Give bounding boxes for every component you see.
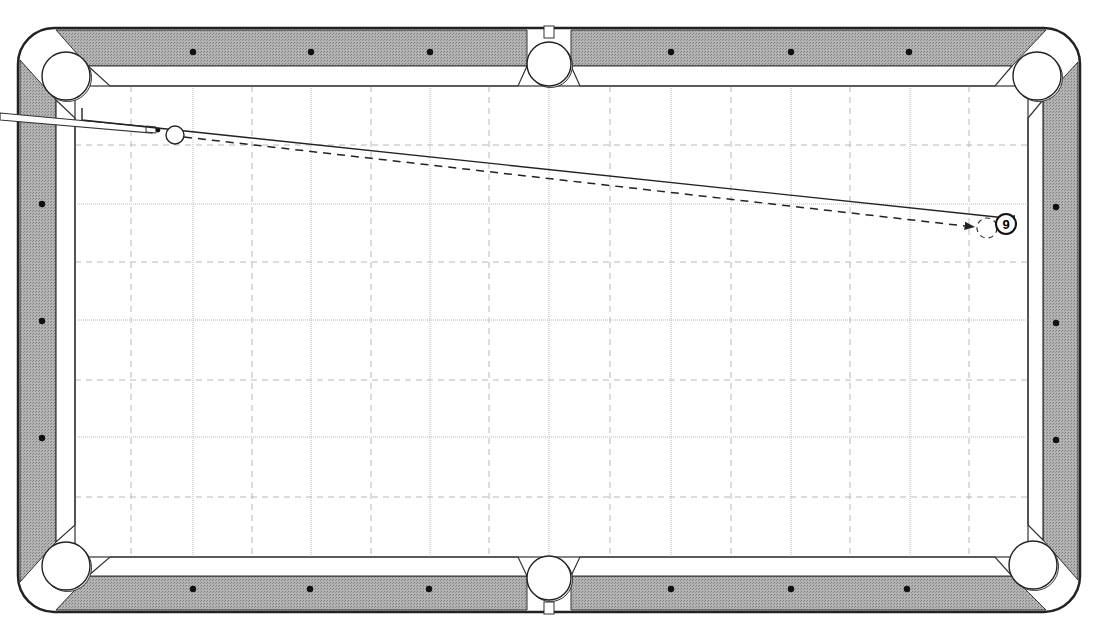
cue-ball bbox=[166, 126, 184, 144]
diamond-marker bbox=[668, 49, 674, 55]
diamond-marker bbox=[307, 586, 313, 592]
diamond-marker bbox=[39, 318, 45, 324]
top-rail-left bbox=[56, 30, 527, 66]
cushion-top-right bbox=[571, 66, 1012, 86]
cushion-right bbox=[1028, 100, 1043, 540]
diamond-marker bbox=[426, 586, 432, 592]
pool-table-diagram: 9 bbox=[0, 0, 1098, 627]
cushion-bottom-right bbox=[571, 557, 1012, 576]
diamond-marker bbox=[190, 586, 196, 592]
right-rail bbox=[1043, 62, 1078, 580]
diamond-marker bbox=[39, 435, 45, 441]
diamond-marker bbox=[427, 49, 433, 55]
pocket-top-left bbox=[42, 52, 90, 100]
diamond-marker bbox=[190, 49, 196, 55]
pocket-top-middle bbox=[527, 42, 571, 86]
diamond-marker bbox=[1053, 204, 1059, 210]
diamond-marker bbox=[668, 586, 674, 592]
object-ball-9: 9 bbox=[996, 214, 1016, 234]
bottom-rail-left bbox=[56, 576, 527, 610]
top-rail-right bbox=[571, 30, 1046, 66]
pocket-bottom-left bbox=[42, 542, 90, 590]
bottom-rail-right bbox=[571, 576, 1046, 610]
pocket-bottom-right bbox=[1009, 541, 1057, 589]
cushion-left bbox=[56, 100, 75, 542]
diamond-marker bbox=[308, 49, 314, 55]
cushion-bottom-left bbox=[88, 557, 527, 576]
diamond-marker bbox=[788, 49, 794, 55]
diamond-marker bbox=[788, 586, 794, 592]
ball-number-label: 9 bbox=[1002, 217, 1009, 232]
diamond-marker bbox=[904, 586, 910, 592]
diamond-marker bbox=[1053, 320, 1059, 326]
diamond-marker bbox=[906, 49, 912, 55]
left-rail bbox=[20, 60, 56, 582]
diamond-marker bbox=[1053, 437, 1059, 443]
diamond-marker bbox=[39, 201, 45, 207]
cushion-top-left bbox=[88, 66, 527, 86]
pocket-bottom-middle bbox=[527, 556, 571, 600]
pocket-top-right bbox=[1013, 52, 1061, 100]
